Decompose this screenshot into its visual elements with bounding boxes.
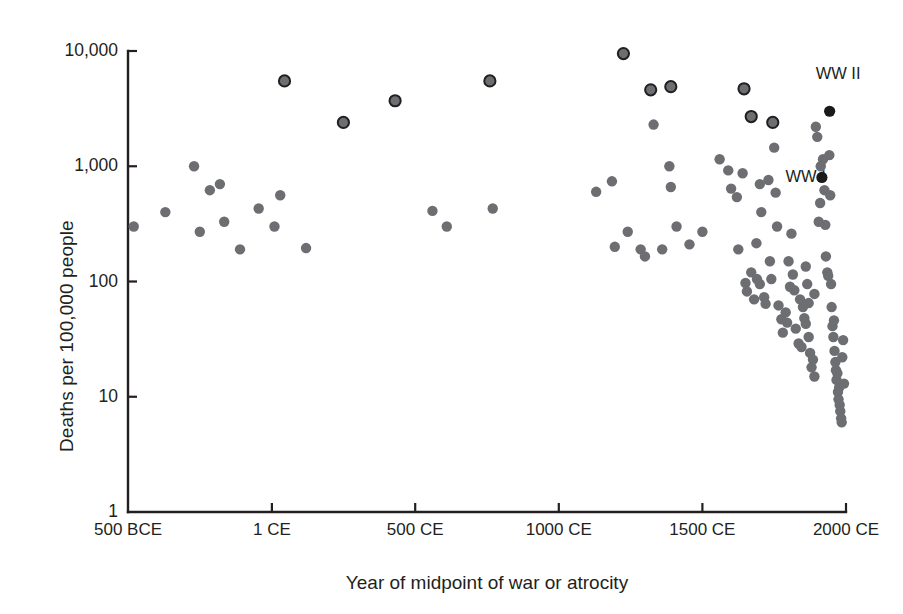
data-point-marker	[129, 221, 139, 231]
data-point-marker	[623, 227, 633, 237]
data-point-marker	[832, 368, 842, 378]
data-point-marker	[737, 168, 747, 178]
data-point-marker	[275, 190, 285, 200]
data-point-marker	[215, 179, 225, 189]
data-point-marker	[808, 354, 818, 364]
data-point-marker	[812, 132, 822, 142]
data-point-marker	[780, 307, 790, 317]
data-point-marker	[665, 81, 676, 92]
data-point-marker	[488, 203, 498, 213]
data-point-marker	[791, 323, 801, 333]
data-point-marker	[837, 352, 847, 362]
data-point-marker	[839, 378, 849, 388]
data-point-marker	[755, 279, 765, 289]
axis-lines	[128, 51, 846, 512]
data-point-marker	[803, 332, 813, 342]
data-point-marker	[809, 371, 819, 381]
data-point-marker	[269, 221, 279, 231]
data-point-marker	[442, 221, 452, 231]
data-point-marker	[802, 279, 812, 289]
data-point-marker	[279, 75, 290, 86]
data-point-marker	[838, 335, 848, 345]
data-point-marker	[749, 294, 759, 304]
data-point-marker	[195, 227, 205, 237]
data-point-marker	[816, 172, 827, 183]
data-point-marker	[767, 117, 778, 128]
data-point-marker	[657, 244, 667, 254]
data-point-marker	[742, 286, 752, 296]
data-point-marker	[645, 84, 656, 95]
data-point-marker	[205, 185, 215, 195]
data-point-marker	[618, 48, 629, 59]
data-point-markers	[129, 48, 850, 428]
data-point-marker	[219, 217, 229, 227]
data-point-marker	[726, 183, 736, 193]
data-point-marker	[591, 187, 601, 197]
data-point-marker	[826, 279, 836, 289]
data-point-marker	[821, 251, 831, 261]
data-point-marker	[795, 294, 805, 304]
plot-canvas	[0, 0, 903, 614]
data-point-marker	[811, 122, 821, 132]
data-point-marker	[648, 119, 658, 129]
data-point-marker	[751, 238, 761, 248]
data-point-marker	[160, 207, 170, 217]
data-point-marker	[664, 161, 674, 171]
data-point-marker	[801, 319, 811, 329]
data-point-marker	[778, 327, 788, 337]
data-point-marker	[671, 221, 681, 231]
data-point-marker	[769, 142, 779, 152]
data-point-marker	[765, 256, 775, 266]
data-point-marker	[782, 317, 792, 327]
data-point-marker	[788, 269, 798, 279]
data-point-marker	[746, 111, 757, 122]
data-point-marker	[760, 299, 770, 309]
data-point-marker	[189, 161, 199, 171]
data-point-marker	[828, 332, 838, 342]
data-point-marker	[484, 75, 495, 86]
data-point-marker	[820, 220, 830, 230]
data-point-marker	[829, 315, 839, 325]
data-point-marker	[723, 165, 733, 175]
scatter-plot-figure: Deaths per 100,000 people Year of midpoi…	[0, 0, 903, 614]
data-point-marker	[825, 190, 835, 200]
data-point-marker	[796, 342, 806, 352]
data-point-marker	[697, 227, 707, 237]
data-point-marker	[824, 106, 835, 117]
data-point-marker	[785, 282, 795, 292]
data-point-marker	[801, 261, 811, 271]
data-point-marker	[763, 175, 773, 185]
data-point-marker	[766, 274, 776, 284]
data-point-marker	[786, 228, 796, 238]
data-point-marker	[756, 207, 766, 217]
data-point-marker	[738, 83, 749, 94]
data-point-marker	[684, 239, 694, 249]
data-point-marker	[824, 150, 834, 160]
axis-tick-marks	[128, 51, 846, 512]
data-point-marker	[772, 221, 782, 231]
data-point-marker	[253, 203, 263, 213]
data-point-marker	[783, 256, 793, 266]
data-point-marker	[301, 243, 311, 253]
data-point-marker	[666, 182, 676, 192]
data-point-marker	[815, 198, 825, 208]
data-point-marker	[235, 244, 245, 254]
data-point-marker	[640, 251, 650, 261]
data-point-marker	[610, 242, 620, 252]
data-point-marker	[427, 206, 437, 216]
data-point-marker	[733, 244, 743, 254]
data-point-marker	[607, 176, 617, 186]
data-point-marker	[390, 95, 401, 106]
data-point-marker	[732, 192, 742, 202]
data-point-marker	[836, 417, 846, 427]
data-point-marker	[826, 302, 836, 312]
data-point-marker	[714, 154, 724, 164]
data-point-marker	[338, 117, 349, 128]
data-point-marker	[770, 187, 780, 197]
data-point-marker	[809, 289, 819, 299]
